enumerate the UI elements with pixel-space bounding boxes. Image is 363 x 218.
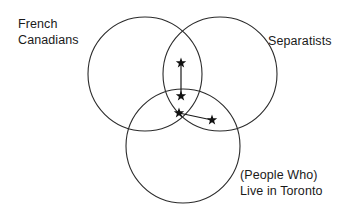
connector-diagonal-line xyxy=(179,113,212,120)
set-label-live-in-toronto: (People Who) Live in Toronto xyxy=(240,168,323,199)
set-label-separatists: Separatists xyxy=(268,34,332,50)
star-marker-2 xyxy=(176,91,186,101)
venn-diagram-figure: French Canadians Separatists (People Who… xyxy=(0,0,363,218)
set-label-french-canadians: French Canadians xyxy=(18,17,79,48)
venn-circle-live-in-toronto xyxy=(126,89,240,203)
